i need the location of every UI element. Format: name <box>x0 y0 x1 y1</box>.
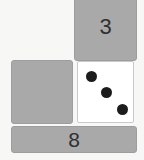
die-pip-center-icon <box>101 87 112 98</box>
number-tile-three[interactable]: 3 <box>74 0 137 61</box>
blank-tile[interactable] <box>11 60 73 124</box>
game-board[interactable]: 3 8 <box>0 0 144 160</box>
die-pip-top-left-icon <box>86 71 97 82</box>
number-tile-eight[interactable]: 8 <box>11 126 137 153</box>
die-face-three[interactable] <box>77 61 134 123</box>
tile-eight-label: 8 <box>68 129 80 150</box>
tile-three-label: 3 <box>99 16 111 38</box>
die-pip-bottom-right-icon <box>117 104 128 115</box>
